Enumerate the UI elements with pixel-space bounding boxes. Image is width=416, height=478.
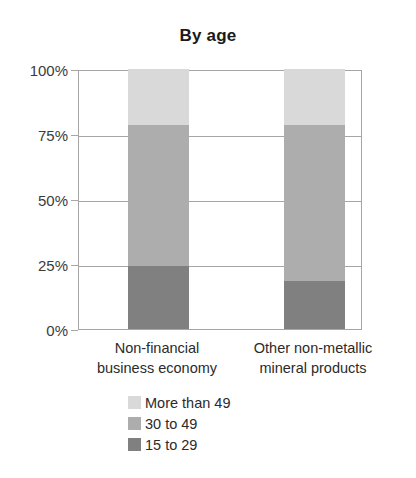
legend-swatch-icon — [128, 417, 141, 430]
bar-segment — [128, 69, 189, 125]
bar-segment — [128, 266, 189, 329]
x-axis-category-label: Other non-metallicmineral products — [223, 338, 403, 378]
y-axis-tick-mark — [71, 200, 78, 201]
bar-segment — [128, 125, 189, 266]
bar-segment — [284, 69, 345, 125]
chart-container: By age 100%75%50%25%0% Non-financialbusi… — [0, 0, 416, 478]
legend-item-inner: 15 to 29 — [128, 437, 288, 453]
y-axis-tick-mark — [71, 70, 78, 71]
bar-column — [128, 69, 189, 329]
legend-item[interactable]: 30 to 49 — [0, 413, 416, 434]
bar-column — [284, 69, 345, 329]
legend-item[interactable]: 15 to 29 — [0, 434, 416, 455]
plot-area — [78, 70, 362, 330]
y-axis-tick-label: 100% — [8, 62, 68, 79]
y-axis-tick-label: 75% — [8, 127, 68, 144]
y-axis-tick-label: 0% — [8, 322, 68, 339]
category-label-line: Non-financial — [67, 338, 247, 358]
legend-label: 15 to 29 — [145, 437, 197, 453]
legend-label: 30 to 49 — [145, 416, 197, 432]
y-axis-tick-mark — [71, 330, 78, 331]
legend-swatch-icon — [128, 438, 141, 451]
y-axis-tick-label: 50% — [8, 192, 68, 209]
legend-item-inner: 30 to 49 — [128, 416, 288, 432]
category-label-line: business economy — [67, 358, 247, 378]
y-axis-tick-label: 25% — [8, 257, 68, 274]
category-label-line: mineral products — [223, 358, 403, 378]
y-axis-tick-mark — [71, 135, 78, 136]
legend-item-inner: More than 49 — [128, 395, 288, 411]
bar-segment — [284, 125, 345, 281]
category-label-line: Other non-metallic — [223, 338, 403, 358]
x-axis-category-label: Non-financialbusiness economy — [67, 338, 247, 378]
chart-legend: More than 4930 to 4915 to 29 — [0, 392, 416, 455]
legend-swatch-icon — [128, 396, 141, 409]
legend-item[interactable]: More than 49 — [0, 392, 416, 413]
y-axis-tick-mark — [71, 265, 78, 266]
legend-label: More than 49 — [145, 395, 230, 411]
chart-title: By age — [0, 26, 416, 46]
bar-segment — [284, 281, 345, 329]
